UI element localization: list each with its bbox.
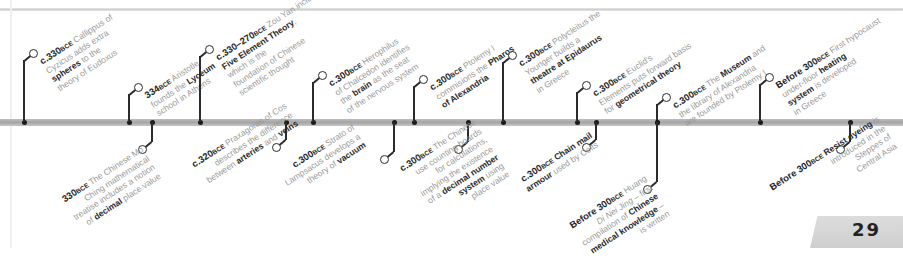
event-label: 330BCE The Chinese MoChing mathematicalt… [60,144,163,231]
connector-stem [759,84,761,122]
connector-stem [312,82,314,122]
event-label: c.300BCE Chain mailarmour used by Celts [518,130,600,194]
connector-stem [656,122,658,182]
event-label: c.300BCE The Chineseuse counting boardsf… [398,117,511,226]
timeline-bar [0,119,903,126]
connector-stem [128,94,130,122]
event-label: c.300BCE Ptolemy Icommisions the Pharoso… [428,34,522,110]
event-label: Before 300BCE Resist dyeing isintroduced… [768,114,899,219]
event-era: BCE [809,152,824,165]
connector-stem [151,122,153,142]
connector-stem [595,122,597,140]
connector-stem [413,86,415,122]
event-label: 334BCE Aristotlefounds the Lyceumschool … [143,51,223,118]
event-label: c.300BCE Herophilusof Chalcedon identifi… [327,33,423,115]
event-label: Before 300BCE HuangDi Nei Jing – firstco… [568,173,671,258]
connector-stem [393,122,395,152]
event-text: First hypocaust [828,15,882,55]
event-label: c.330BCE Callippus ofCyzicus adds extras… [38,12,132,93]
event-marker-ring [380,155,389,164]
connector-stem [23,60,25,122]
connector-stem [502,62,504,122]
connector-stem [199,56,201,122]
page-number: 29 [852,219,881,240]
event-date: Before 300 [767,157,813,192]
connector-stem [576,92,578,122]
event-label: Before 300BCE First hypocaustunder-floor… [774,15,899,117]
top-rule [0,8,903,11]
